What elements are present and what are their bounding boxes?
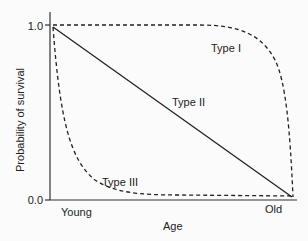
survivorship-chart: 1.0 0.0 Young Old Age Probability of sur… (0, 0, 308, 241)
x-axis-label: Age (163, 220, 183, 232)
type-i-label: Type I (211, 42, 241, 54)
type-iii-label: Type III (102, 176, 138, 188)
type-ii-label: Type II (172, 96, 205, 108)
type-ii-line (53, 27, 292, 197)
y-tick-label-bottom: 0.0 (28, 194, 43, 206)
y-tick-label-top: 1.0 (28, 20, 43, 32)
y-axis-label: Probability of survival (14, 68, 26, 172)
x-tick-label-old: Old (265, 203, 282, 215)
type-i-curve (53, 25, 293, 197)
x-tick-label-young: Young (61, 206, 92, 218)
